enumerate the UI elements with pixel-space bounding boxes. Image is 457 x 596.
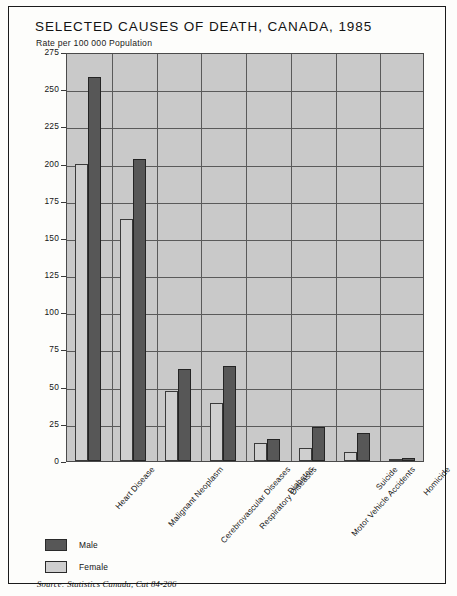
- bar-male: [402, 458, 415, 461]
- bar-male: [223, 366, 236, 461]
- plot-area: [66, 53, 424, 462]
- y-axis-tick-label: 200: [44, 159, 59, 169]
- legend-label-male: Male: [79, 540, 98, 550]
- x-axis-labels: Heart DiseaseMalignant NeoplasmCerebrova…: [66, 462, 424, 542]
- legend-item-male: Male: [45, 536, 108, 554]
- legend-swatch-male: [45, 539, 67, 551]
- y-axis-tick-label: 175: [44, 196, 59, 206]
- bar-male: [133, 159, 146, 461]
- legend-label-female: Female: [79, 562, 108, 572]
- chart-page: SELECTED CAUSES OF DEATH, CANADA, 1985 R…: [0, 0, 457, 596]
- x-axis-label: Malignant Neoplasm: [167, 465, 225, 528]
- x-axis-label: Heart Disease: [114, 465, 157, 511]
- bar-female: [254, 443, 267, 461]
- y-axis-tick-label: 100: [44, 307, 59, 317]
- bar-female: [210, 403, 223, 461]
- bars-layer: [67, 54, 423, 461]
- chart-title: SELECTED CAUSES OF DEATH, CANADA, 1985: [35, 19, 372, 34]
- y-axis-tick-label: 125: [44, 270, 59, 280]
- y-axis: 0255075100125150175200225250275: [9, 47, 66, 468]
- y-axis-tick-label: 150: [44, 233, 59, 243]
- bar-male: [357, 433, 370, 461]
- bar-male: [312, 427, 325, 461]
- bar-male: [88, 77, 101, 461]
- legend-swatch-female: [45, 561, 67, 573]
- bar-female: [299, 448, 312, 461]
- bar-female: [344, 452, 357, 461]
- plot-wrapper: [66, 53, 424, 462]
- y-axis-tick-label: 250: [44, 84, 59, 94]
- bar-female: [120, 219, 133, 461]
- chart-legend: Male Female: [45, 536, 108, 580]
- y-axis-tick-label: 0: [54, 456, 59, 466]
- bar-male: [178, 369, 191, 461]
- source-note: Source: Statistics Canada, Cat 84-206: [37, 579, 177, 589]
- bar-female: [165, 391, 178, 461]
- y-axis-tick-label: 25: [49, 419, 59, 429]
- y-axis-tick-label: 225: [44, 121, 59, 131]
- y-axis-tick-label: 75: [49, 344, 59, 354]
- y-axis-tick-label: 275: [44, 47, 59, 57]
- bar-male: [267, 439, 280, 461]
- y-axis-tick-label: 50: [49, 382, 59, 392]
- x-axis-label: Homicide: [421, 465, 451, 497]
- chart-frame: SELECTED CAUSES OF DEATH, CANADA, 1985 R…: [8, 6, 446, 584]
- bar-female: [389, 459, 402, 461]
- bar-female: [75, 164, 88, 461]
- legend-item-female: Female: [45, 558, 108, 576]
